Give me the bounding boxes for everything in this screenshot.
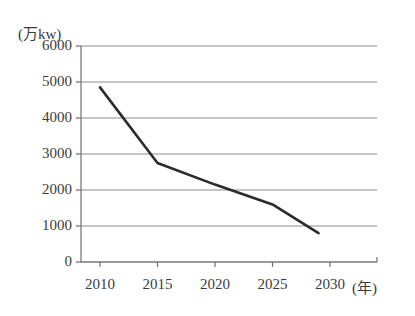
x-tick-label: 2010 — [72, 276, 128, 293]
x-tick-marks-group — [100, 262, 330, 267]
y-tick-label: 4000 — [14, 109, 72, 126]
gridlines-group — [81, 46, 377, 262]
data-series-group — [100, 87, 319, 233]
y-tick-label: 2000 — [14, 181, 72, 198]
y-tick-label: 5000 — [14, 73, 72, 90]
y-tick-label: 0 — [14, 253, 72, 270]
x-axis-unit-label: (年) — [352, 276, 377, 297]
chart-container: (万kw) 6000500040003000200010000 20102015… — [0, 0, 415, 316]
x-tick-label: 2025 — [245, 276, 301, 293]
y-tick-marks-group — [76, 46, 81, 262]
x-tick-label: 2020 — [187, 276, 243, 293]
y-tick-label: 6000 — [14, 37, 72, 54]
x-tick-label: 2030 — [302, 276, 358, 293]
data-line — [100, 87, 319, 233]
x-tick-label: 2015 — [130, 276, 186, 293]
y-tick-label: 1000 — [14, 217, 72, 234]
y-tick-label: 3000 — [14, 145, 72, 162]
